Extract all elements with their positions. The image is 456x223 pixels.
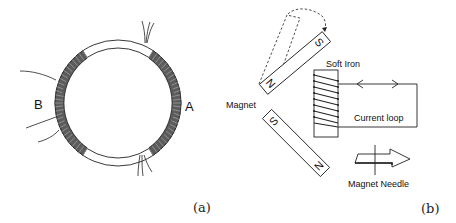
panel-b: N S S N Magnet Soft Iron	[226, 9, 439, 216]
coil-b	[55, 51, 87, 156]
figure-canvas: B A (a) N S S N Magnet Soft Iron	[0, 0, 456, 223]
motion-arrowhead	[322, 27, 327, 32]
magnet-needle	[355, 145, 410, 175]
current-loop-label: Current loop	[354, 113, 404, 123]
needle-label: Magnet Needle	[348, 179, 409, 189]
panel-b-caption: (b)	[421, 201, 439, 216]
soft-iron-label: Soft Iron	[326, 59, 360, 69]
coil-a	[149, 51, 181, 156]
coil-a-label: A	[185, 99, 194, 114]
coil-b-label: B	[34, 97, 43, 112]
panel-a-caption: (a)	[193, 200, 211, 215]
panel-a: B A (a)	[20, 21, 211, 215]
magnet-label: Magnet	[226, 100, 257, 110]
